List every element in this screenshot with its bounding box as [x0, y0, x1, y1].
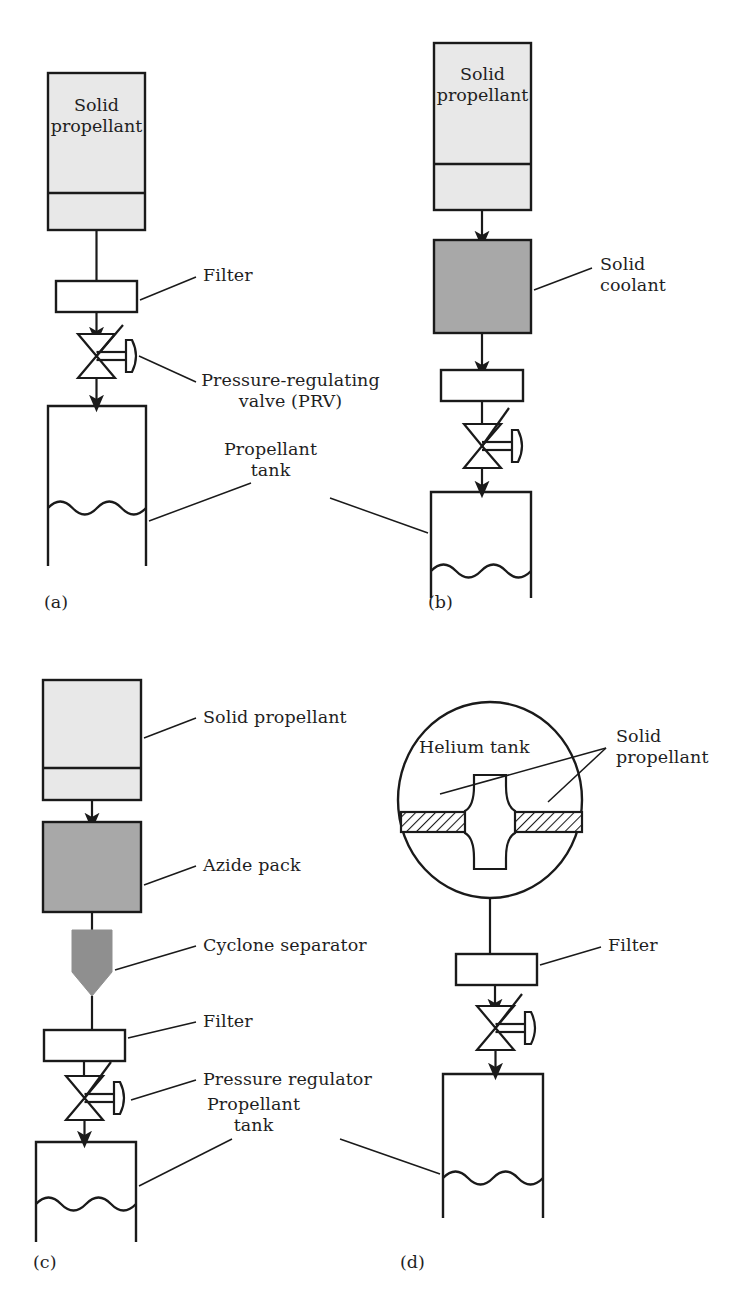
panel-d-propellant-label-line2: propellant [616, 747, 709, 767]
figure-canvas: Solidpropellant Filter Pressure-regulati… [0, 0, 734, 1302]
panel-b-tank-outline [431, 492, 531, 598]
panel-a-leader-tank [149, 483, 251, 521]
panel-c-caption: (c) [33, 1252, 56, 1272]
panel-a-leader-filter [140, 277, 196, 300]
panel-c-leader-propellant [144, 718, 196, 738]
panel-a-propellant-box-label: Solidpropellant [48, 95, 145, 137]
panel-c-filter-box [44, 1030, 125, 1061]
panel-b-propellant-line1: Solid [460, 64, 505, 84]
panel-d-filter-label: Filter [608, 935, 658, 956]
panel-d-prv-actuator [525, 1012, 535, 1044]
panel-b-coolant-label: Solidcoolant [600, 254, 666, 296]
panel-c-regulator-actuator [114, 1082, 124, 1114]
panel-a-prv-label-line2: valve (PRV) [239, 391, 342, 411]
schematic-vector-layer [0, 0, 734, 1302]
panel-a-propellant-line1: Solid [74, 95, 119, 115]
panel-c-graphics [36, 680, 232, 1242]
panel-c-tank-label: Propellanttank [196, 1094, 311, 1136]
panel-a-filter-box [56, 281, 137, 312]
panel-a-prv-label-line1: Pressure-regulating [201, 370, 380, 390]
panel-c-tank-label-line1: Propellant [207, 1094, 300, 1114]
panel-a-propellant-line2: propellant [51, 116, 143, 136]
panel-c-regulator-label: Pressure regulator [203, 1069, 372, 1090]
panel-c-leader-filter [128, 1022, 196, 1038]
panel-c-tank-outline [36, 1142, 136, 1242]
panel-a-tank-label-line2: tank [251, 460, 291, 480]
panel-b-propellant-line2: propellant [437, 85, 529, 105]
panel-d-tank-fluid-line [443, 1172, 543, 1185]
panel-c-azide-box [43, 822, 141, 912]
panel-d-filter-box [456, 954, 537, 985]
panel-c-leader-regulator [131, 1080, 196, 1100]
panel-c-filter-label: Filter [203, 1011, 253, 1032]
panel-d-propellant-slab-left [401, 812, 474, 832]
panel-a-graphics [48, 73, 251, 566]
panel-b-propellant-box-label: Solidpropellant [434, 64, 531, 106]
panel-c-azide-label: Azide pack [203, 855, 301, 876]
panel-d-tank-outline [443, 1074, 543, 1218]
panel-a-caption: (a) [44, 592, 68, 612]
panel-b-filter-box [441, 370, 523, 401]
panel-d-graphics [340, 702, 606, 1218]
panel-a-prv-label: Pressure-regulatingvalve (PRV) [178, 370, 403, 412]
panel-b-tank-fluid-line [431, 565, 531, 578]
panel-d-leader-tank [340, 1139, 440, 1174]
panel-c-leader-cyclone [115, 946, 196, 970]
panel-b-coolant-label-line1: Solid [600, 254, 645, 274]
panel-b-leader-tank [330, 498, 428, 533]
panel-a-tank-label-line1: Propellant [224, 439, 317, 459]
panel-d-leader-filter [540, 947, 601, 965]
panel-c-leader-tank [139, 1139, 232, 1186]
panel-a-tank-label: Propellanttank [213, 439, 328, 481]
panel-d-propellant-slab-right [509, 812, 582, 832]
panel-a-tank-fluid-line [48, 502, 146, 515]
panel-c-leader-azide [144, 866, 196, 885]
panel-b-coolant-label-line2: coolant [600, 275, 666, 295]
panel-d-propellant-label: Solidpropellant [616, 726, 709, 768]
panel-c-tank-label-line2: tank [234, 1115, 274, 1135]
panel-c-tank-fluid-line [36, 1198, 136, 1211]
panel-a-tank-outline [48, 406, 146, 566]
panel-b-leader-coolant [534, 268, 592, 290]
panel-d-caption: (d) [400, 1252, 425, 1272]
panel-d-helium-tank-label: Helium tank [419, 737, 530, 758]
panel-a-filter-label: Filter [203, 265, 253, 286]
panel-b-coolant-box [434, 240, 531, 333]
panel-c-cyclone-label: Cyclone separator [203, 935, 367, 956]
panel-c-cyclone-separator [72, 930, 112, 996]
panel-b-caption: (b) [428, 592, 453, 612]
panel-d-propellant-label-line1: Solid [616, 726, 661, 746]
panel-b-graphics [330, 43, 592, 598]
panel-c-propellant-label: Solid propellant [203, 707, 347, 728]
panel-a-prv-actuator [126, 340, 136, 372]
panel-c-propellant-box [43, 680, 141, 800]
panel-b-prv-actuator [512, 430, 522, 462]
